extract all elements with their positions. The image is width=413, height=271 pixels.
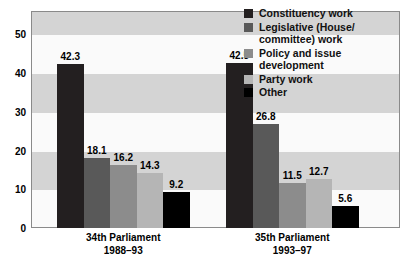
y-axis-tick-label: 10 <box>15 184 26 195</box>
y-axis-tick-label: 40 <box>15 68 26 79</box>
bar <box>163 192 190 228</box>
legend-label: Policy and issuedevelopment <box>259 47 341 72</box>
legend-item: Other <box>244 86 355 99</box>
legend-label-line: committee) work <box>259 33 355 46</box>
bar-value-label: 42.3 <box>61 51 80 62</box>
y-axis-tick-label: 20 <box>15 145 26 156</box>
legend-label-line: Constituency work <box>259 7 353 20</box>
legend-label-line: Other <box>259 86 287 99</box>
x-axis-group-label-line: 1988–93 <box>86 244 160 257</box>
legend-label-line: Legislative (House/ <box>259 21 355 34</box>
legend-item: Constituency work <box>244 7 355 20</box>
bar <box>306 179 333 228</box>
bar <box>110 165 137 228</box>
bar <box>57 64 84 228</box>
y-axis: 01020304050 <box>0 11 31 228</box>
x-axis-group-label: 35th Parliament1993–97 <box>255 231 329 257</box>
legend-item: Party work <box>244 73 355 86</box>
legend-swatch-icon <box>244 9 253 18</box>
y-axis-tick-label: 0 <box>20 223 26 234</box>
legend-label-line: Policy and issue <box>259 47 341 60</box>
bar-value-label: 11.5 <box>283 170 302 181</box>
legend-item: Legislative (House/committee) work <box>244 21 355 46</box>
y-axis-tick-label: 30 <box>15 106 26 117</box>
legend-label: Party work <box>259 73 313 86</box>
legend-label-line: development <box>259 59 341 72</box>
bar <box>137 173 164 228</box>
x-axis-group-label-line: 1993–97 <box>255 244 329 257</box>
bar-value-label: 5.6 <box>338 193 352 204</box>
bar-value-label: 9.2 <box>169 179 183 190</box>
bar <box>84 158 111 228</box>
bar-value-label: 14.3 <box>140 160 159 171</box>
bar-value-label: 12.7 <box>309 166 328 177</box>
x-axis-group-label-line: 34th Parliament <box>86 231 160 244</box>
legend-swatch-icon <box>244 49 253 58</box>
bar <box>253 124 280 228</box>
legend-label-line: Party work <box>259 73 313 86</box>
x-axis-group-label: 34th Parliament1988–93 <box>86 231 160 257</box>
legend-item: Policy and issuedevelopment <box>244 47 355 72</box>
legend-label: Other <box>259 86 287 99</box>
legend-label: Legislative (House/committee) work <box>259 21 355 46</box>
legend-swatch-icon <box>244 88 253 97</box>
y-axis-tick-label: 50 <box>15 29 26 40</box>
bar <box>279 183 306 228</box>
legend-swatch-icon <box>244 75 253 84</box>
bar-value-label: 16.2 <box>114 152 133 163</box>
bar-value-label: 18.1 <box>87 145 106 156</box>
bar <box>332 206 359 228</box>
bar-value-label: 26.8 <box>256 111 275 122</box>
bar-chart: 01020304050 42.342.518.126.816.211.514.3… <box>0 0 413 271</box>
legend-label: Constituency work <box>259 7 353 20</box>
legend-swatch-icon <box>244 23 253 32</box>
legend: Constituency workLegislative (House/comm… <box>240 3 361 104</box>
x-axis-group-label-line: 35th Parliament <box>255 231 329 244</box>
